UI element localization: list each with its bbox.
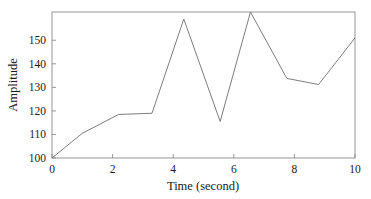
y-axis-title: Amplitude (6, 58, 20, 112)
y-tick-label: 130 (29, 81, 47, 93)
x-tick-label: 6 (231, 163, 237, 175)
y-tick-label: 110 (29, 128, 46, 140)
y-tick-label: 150 (29, 34, 47, 46)
x-tick-label: 10 (349, 163, 361, 175)
chart-background (0, 0, 371, 199)
y-tick-label: 120 (29, 105, 47, 117)
x-tick-label: 2 (110, 163, 116, 175)
line-chart: 100110120130140150 0246810 Time (second)… (0, 0, 371, 199)
x-tick-label: 4 (170, 163, 176, 175)
x-tick-label: 8 (292, 163, 298, 175)
x-axis-title: Time (second) (167, 179, 239, 193)
x-tick-label: 0 (49, 163, 55, 175)
y-tick-label: 140 (29, 58, 47, 70)
y-tick-label: 100 (29, 152, 47, 164)
chart-figure: 100110120130140150 0246810 Time (second)… (0, 0, 371, 199)
